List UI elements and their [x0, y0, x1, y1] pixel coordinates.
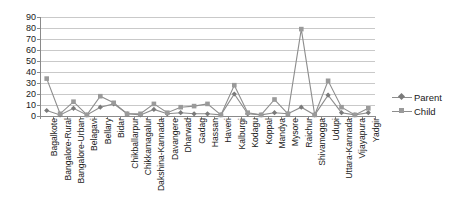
diamond-marker: [98, 105, 103, 110]
x-axis-label: Udupi: [332, 118, 341, 140]
diamond-marker: [398, 93, 405, 100]
square-marker: [232, 83, 237, 88]
square-marker: [85, 113, 90, 118]
square-marker: [205, 102, 210, 107]
x-axis-label: Koppal: [265, 118, 274, 145]
x-axis-label: Bangalore-Rural: [64, 118, 73, 181]
x-axis-label: Bagalkote: [50, 118, 59, 156]
x-axis-label: Yadgir: [372, 118, 381, 142]
x-axis-label: Shivamogga: [318, 118, 327, 166]
x-axis-label: Vijayapura: [358, 118, 367, 158]
diamond-marker: [44, 108, 49, 113]
square-marker: [272, 97, 277, 102]
x-axis-label: Dakshina-Kannada: [157, 118, 166, 191]
x-axis-label: Haveri: [224, 118, 233, 143]
diamond-marker: [151, 107, 156, 112]
x-axis-label: Raichur: [305, 118, 314, 148]
x-axis-label: Uttara-Kannada: [345, 118, 354, 179]
line-chart: 0102030405060708090 BagalkoteBangalore-R…: [0, 0, 454, 221]
diamond-marker: [366, 110, 371, 115]
square-marker: [98, 94, 103, 99]
x-axis-label: Bidar: [117, 118, 126, 138]
square-marker: [138, 112, 143, 117]
square-marker: [326, 79, 331, 84]
square-marker: [366, 106, 371, 111]
x-axis-label: Mandya: [278, 118, 287, 149]
x-axis-label: Davangere: [171, 118, 180, 160]
legend-item-parent: Parent: [392, 90, 442, 104]
x-axis-label: Hassan: [211, 118, 220, 147]
square-marker: [286, 112, 291, 117]
square-marker: [165, 110, 170, 115]
legend-label: Parent: [414, 92, 442, 103]
square-marker: [299, 27, 304, 32]
square-marker: [192, 104, 197, 109]
square-marker: [58, 112, 63, 117]
square-marker: [339, 105, 344, 110]
x-axis-label: Chikballarpur: [131, 118, 140, 169]
x-axis-label: Belagavi: [90, 118, 99, 151]
x-axis-label: Bangalore-Urban: [77, 118, 86, 183]
square-marker: [125, 112, 130, 117]
diamond-marker: [192, 111, 197, 116]
square-marker: [312, 113, 317, 118]
diamond-marker: [272, 110, 277, 115]
x-axis-label: Dharwad: [184, 118, 193, 152]
square-marker: [399, 108, 404, 113]
diamond-marker: [299, 105, 304, 110]
diamond-marker: [178, 110, 183, 115]
x-axis-label: Kalburgi: [238, 118, 247, 150]
diamond-marker: [205, 111, 210, 116]
square-marker: [71, 99, 76, 104]
square-marker: [259, 113, 264, 118]
legend-label: Child: [414, 106, 436, 117]
diamond-marker-icon: [392, 92, 412, 102]
x-axis-label: Bellary: [104, 118, 113, 144]
square-marker: [178, 105, 183, 110]
square-marker: [111, 101, 116, 106]
legend-item-child: Child: [392, 104, 442, 118]
square-marker-icon: [392, 106, 412, 116]
square-marker: [219, 113, 224, 118]
x-axis-category-labels: BagalkoteBangalore-RuralBangalore-UrbanB…: [0, 118, 454, 218]
square-marker: [44, 76, 49, 81]
diamond-marker: [71, 106, 76, 111]
x-axis-label: Mysore: [291, 118, 300, 146]
chart-legend: ParentChild: [392, 90, 442, 118]
x-axis-label: Gadag: [198, 118, 207, 144]
square-marker: [353, 113, 358, 118]
square-marker: [245, 110, 250, 115]
square-marker: [152, 102, 157, 107]
x-axis-label: Kodagu: [251, 118, 260, 148]
x-axis-label: Chikkamagalur: [144, 118, 153, 175]
